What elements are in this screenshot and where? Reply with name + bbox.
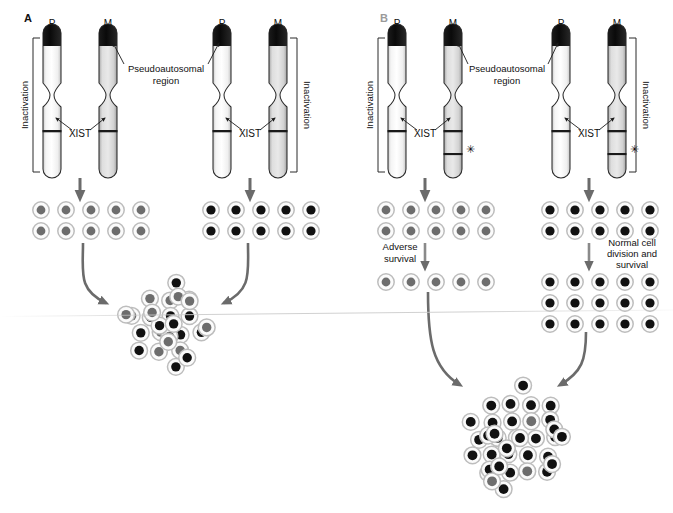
cell-nucleus (256, 205, 265, 214)
cell (133, 202, 149, 218)
cell-nucleus (518, 381, 528, 391)
cell-nucleus (87, 206, 96, 215)
mosaic-cluster-a (118, 274, 215, 375)
cell (567, 202, 583, 218)
cell (567, 316, 583, 332)
pseudoautosomal-callout-b: Pseudoautosomal region (458, 43, 558, 86)
cell-nucleus (112, 227, 121, 236)
cell (58, 202, 74, 218)
cell-nucleus (545, 298, 554, 307)
cell-nucleus (121, 310, 130, 319)
cell (403, 274, 419, 290)
step-label-line: Adverse (383, 241, 418, 252)
cell (592, 295, 608, 311)
cell-nucleus (457, 206, 466, 215)
cell-nucleus (486, 401, 496, 411)
cell-nucleus (645, 298, 654, 307)
chromosome-paternal[interactable] (552, 24, 571, 178)
inactivation-bracket (290, 38, 297, 172)
cell (118, 306, 135, 323)
cell-nucleus (171, 362, 180, 371)
cell-nucleus (499, 484, 509, 494)
chromosome-paternal[interactable] (388, 24, 407, 178)
clone-grid-left-a (33, 202, 149, 239)
cell-nucleus (570, 298, 579, 307)
cell-nucleus (482, 206, 491, 215)
pseudoautosomal-label-line1: Pseudoautosomal (469, 63, 545, 74)
mutation-asterisk-icon: ✳ (630, 143, 639, 155)
cell-nucleus (515, 433, 525, 443)
panel-label-B: B (380, 12, 388, 24)
cell-nucleus (164, 337, 173, 346)
arrow-merge-right-b (560, 332, 586, 385)
cell-nucleus (522, 466, 532, 476)
cell (617, 274, 633, 290)
cell-nucleus (457, 278, 466, 287)
cell-nucleus (482, 227, 491, 236)
cell (203, 202, 219, 218)
arrow-merge-right-a (224, 243, 248, 303)
cell (523, 397, 540, 414)
step-label-line: division and (607, 248, 657, 259)
cell-nucleus (595, 298, 604, 307)
cell (617, 202, 633, 218)
xist-band-icon (608, 130, 627, 132)
inactivation-bracket (33, 38, 40, 172)
cell (642, 316, 658, 332)
cell-nucleus (545, 319, 554, 328)
cell-nucleus (531, 434, 541, 444)
chromosome-maternal[interactable] (269, 24, 288, 178)
xist-band-icon (99, 130, 118, 132)
panel-B: B P M ✳ Inactivation XIST (364, 12, 658, 498)
chromosome-paternal[interactable] (213, 24, 232, 178)
cell (519, 463, 536, 480)
inactivation-bracket (378, 38, 385, 172)
cell (498, 440, 515, 457)
cell (453, 274, 469, 290)
panel-label-A: A (24, 12, 32, 24)
arrow-merge-left-a (83, 243, 106, 303)
cell (403, 202, 419, 218)
cell (478, 274, 494, 290)
cell (486, 425, 503, 442)
cell (642, 295, 658, 311)
diagram-svg: A P M Inactivation XIST (0, 0, 673, 513)
cell (203, 223, 219, 239)
cell-nucleus (645, 319, 654, 328)
cell (567, 223, 583, 239)
cell (642, 274, 658, 290)
cell-nucleus (526, 400, 536, 410)
cell (515, 377, 532, 394)
pseudoautosomal-label-line2: region (153, 75, 179, 86)
cell (33, 202, 49, 218)
cell-nucleus (466, 417, 476, 427)
cell-nucleus (482, 278, 491, 287)
xist-band-icon (444, 130, 463, 132)
cell-nucleus (545, 226, 554, 235)
cell (567, 274, 583, 290)
cell (179, 349, 196, 366)
chromosome-paternal[interactable] (43, 24, 62, 178)
cell (228, 202, 244, 218)
chromosome-maternal[interactable] (608, 24, 627, 178)
step-label-line: survival (384, 253, 416, 264)
cell-nucleus (281, 205, 290, 214)
cell-nucleus (432, 227, 441, 236)
cell-nucleus (620, 277, 629, 286)
cell-nucleus (546, 401, 556, 411)
cell-nucleus (570, 205, 579, 214)
cell-nucleus (468, 450, 478, 460)
cell-nucleus (169, 319, 178, 328)
cell (198, 319, 215, 336)
cell (181, 293, 198, 310)
cell (378, 202, 394, 218)
cell (542, 295, 558, 311)
cell (478, 223, 494, 239)
cell (33, 223, 49, 239)
cell-nucleus (231, 205, 240, 214)
chromosome-pair-a-left: P M Inactivation XIST (19, 18, 118, 178)
cell (303, 223, 319, 239)
cell-nucleus (155, 321, 164, 330)
cell (108, 223, 124, 239)
cell (253, 202, 269, 218)
